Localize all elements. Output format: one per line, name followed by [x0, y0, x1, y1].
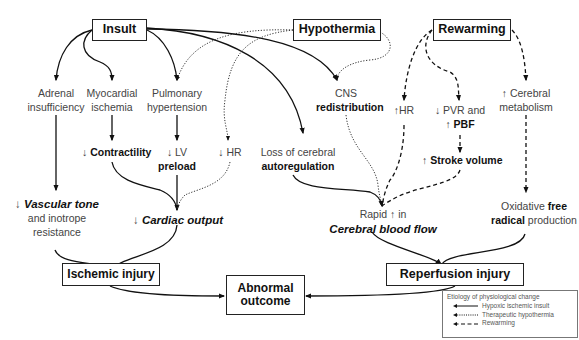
legend-item-solid: Hypoxic ischemic insult [447, 302, 573, 311]
oxid-post: production [525, 214, 577, 226]
oxid-radical: radical [491, 214, 525, 226]
hr-down-node: ↓ HR [214, 146, 246, 160]
cns-line2: redistribution [316, 101, 376, 115]
pvr-pbf-node: ↓ PVR and ↑ PBF [430, 104, 490, 131]
stroke-bold: Stroke volume [430, 154, 502, 166]
vascular-bold: Vascular tone [24, 198, 99, 210]
abnormal-line2: outcome [240, 295, 290, 308]
cbf-bold: Cerebral blood flow [329, 223, 436, 235]
vascular-line3: resistance [14, 226, 100, 240]
cerebral-blood-flow-node: Rapid ↑ in Cerebral blood flow [328, 208, 438, 237]
vascular-line1: ↓ Vascular tone [14, 197, 100, 212]
contractility-node: ↓ Contractility [82, 146, 144, 160]
cns-bold: redistribution [316, 101, 384, 113]
legend-label-dashed: Rewarming [482, 319, 515, 328]
legend: Etiology of physiological change Hypoxic… [442, 290, 578, 338]
lv-line2: preload [157, 160, 197, 174]
pulmonary-hypertension-node: Pulmonary hypertension [146, 87, 208, 114]
rewarming-label: Rewarming [438, 23, 505, 37]
stroke-volume-node: ↑ Stroke volume [422, 154, 500, 168]
loss-line1: Loss of cerebral [258, 146, 338, 160]
dashed-arrow-icon [453, 321, 479, 327]
pulmonary-line1: Pulmonary [146, 87, 208, 101]
insult-box: Insult [92, 19, 147, 41]
loss-autoregulation-node: Loss of cerebral autoregulation [258, 146, 338, 173]
pbf-line: ↑ PBF [430, 118, 490, 132]
cns-line1: CNS [316, 87, 376, 101]
myocardial-ischemia-node: Myocardial ischemia [86, 87, 138, 114]
vascular-tone-node: ↓ Vascular tone and inotrope resistance [14, 197, 100, 239]
pbf-bold: PBF [454, 118, 475, 130]
hr-down-label: ↓ HR [218, 146, 241, 158]
cbf-line: Cerebral blood flow [328, 222, 438, 237]
hypothermia-label: Hypothermia [299, 23, 375, 37]
pvr-line: ↓ PVR and [430, 104, 490, 118]
oxid-free: free [548, 200, 567, 212]
lv-preload-node: ↓ LV preload [157, 146, 197, 173]
oxid-pre: Oxidative [501, 200, 548, 212]
oxidative-radical-node: Oxidative free radical production [490, 200, 578, 227]
contractility-arrow: ↓ [82, 146, 90, 158]
legend-item-dashed: Rewarming [447, 319, 573, 328]
loss-bold: autoregulation [262, 160, 335, 172]
cerebral-metabolism-node: ↑ Cerebral metabolism [496, 87, 556, 114]
hr-up-node: ↑HR [389, 104, 419, 118]
vascular-arrow: ↓ [15, 198, 24, 210]
contractility-bold: Contractility [90, 146, 151, 158]
dotted-arrow-icon [453, 312, 479, 318]
legend-label-dotted: Therapeutic hypothermia [482, 311, 554, 320]
legend-item-dotted: Therapeutic hypothermia [447, 311, 573, 320]
rapid-line: Rapid ↑ in [328, 208, 438, 222]
reperfusion-injury-box: Reperfusion injury [386, 263, 524, 286]
legend-label-solid: Hypoxic ischemic insult [482, 302, 549, 311]
lv-bold: preload [158, 160, 196, 172]
hr-up-label: ↑HR [394, 104, 414, 116]
insult-label: Insult [103, 23, 136, 37]
pbf-arrow: ↑ [445, 118, 453, 130]
cardiac-arrow: ↓ [133, 214, 142, 226]
cns-redistribution-node: CNS redistribution [316, 87, 376, 114]
abnormal-outcome-box: Abnormal outcome [226, 275, 305, 315]
myocardial-line1: Myocardial [86, 87, 138, 101]
loss-line2: autoregulation [258, 160, 338, 174]
solid-arrow-icon [453, 303, 479, 309]
legend-title: Etiology of physiological change [447, 293, 573, 302]
vascular-line2: and inotrope [14, 212, 100, 226]
cereb-met-line1: ↑ Cerebral [496, 87, 556, 101]
ischemic-injury-box: Ischemic injury [62, 263, 160, 286]
lv-line1: ↓ LV [157, 146, 197, 160]
pulmonary-line2: hypertension [146, 101, 208, 115]
rewarming-box: Rewarming [433, 19, 511, 41]
stroke-arrow: ↑ [422, 154, 430, 166]
oxid-line1: Oxidative free [490, 200, 578, 214]
ischemic-injury-label: Ischemic injury [67, 268, 154, 281]
hypothermia-box: Hypothermia [293, 19, 381, 41]
cardiac-bold: Cardiac output [142, 214, 223, 226]
adrenal-line1: Adrenal [26, 87, 86, 101]
adrenal-line2: insufficiency [26, 101, 86, 115]
myocardial-line2: ischemia [86, 101, 138, 115]
cardiac-output-node: ↓ Cardiac output [132, 213, 224, 228]
cereb-met-line2: metabolism [496, 101, 556, 115]
oxid-line2: radical production [490, 214, 578, 228]
adrenal-insufficiency-node: Adrenal insufficiency [26, 87, 86, 114]
reperfusion-injury-label: Reperfusion injury [400, 268, 510, 282]
